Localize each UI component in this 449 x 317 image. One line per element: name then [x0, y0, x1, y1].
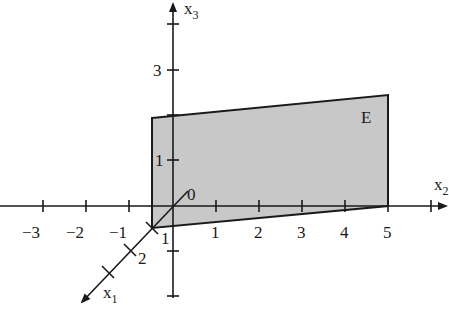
x3-axis-label: x3 — [184, 0, 199, 22]
x1-axis-label: x1 — [103, 283, 118, 306]
x2-axis-label: x2 — [434, 175, 449, 198]
x1-tick-label: 2 — [138, 249, 147, 268]
x2-tick-label: 2 — [254, 223, 263, 242]
x2-tick-label: 1 — [211, 223, 220, 242]
x3-tick-label: 3 — [153, 61, 162, 80]
coordinate-diagram: −3 −2 −1 1 2 3 4 5 1 3 1 2 0 E x3 x2 x1 — [0, 0, 449, 317]
plane-label: E — [361, 108, 371, 127]
origin-label: 0 — [187, 185, 196, 204]
x2-tick-label: 4 — [340, 223, 349, 242]
x2-tick-label: 5 — [383, 223, 392, 242]
x2-tick-label: −3 — [22, 223, 40, 242]
x1-tick-label: 1 — [161, 229, 170, 248]
plane-e — [152, 95, 388, 228]
x2-tick-label: 3 — [297, 223, 306, 242]
x1-axis — [82, 191, 188, 302]
x2-tick-label: −1 — [109, 223, 127, 242]
x3-tick-label: 1 — [155, 151, 164, 170]
x2-tick-label: −2 — [66, 223, 84, 242]
